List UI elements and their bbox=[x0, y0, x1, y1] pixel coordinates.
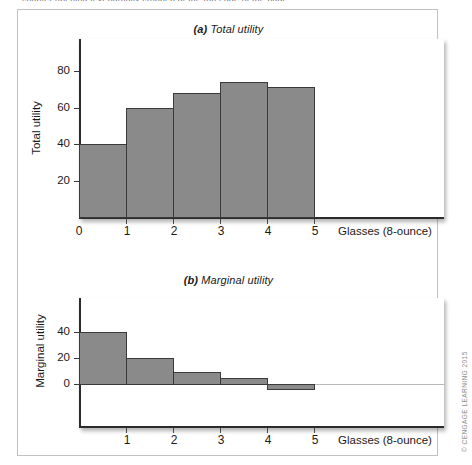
panel-a-title: (a) Total utility bbox=[18, 23, 439, 35]
panel-b-x-label-2: 2 bbox=[162, 433, 186, 447]
panel-b-title-text: Marginal utility bbox=[198, 274, 273, 286]
panel-b-x-label-5: 5 bbox=[303, 433, 327, 447]
panel-a-bar-1 bbox=[79, 144, 127, 218]
panel-b-x-label-1: 1 bbox=[115, 433, 139, 447]
panel-a-bar-2 bbox=[126, 108, 174, 218]
panel-b-x-axis-title: Glasses (8-ounce) bbox=[338, 434, 432, 446]
cropped-top-text: chapter opening text partially cropped a… bbox=[22, 0, 452, 1]
panel-a-bar-5 bbox=[267, 87, 315, 218]
panel-a-x-label-5: 5 bbox=[303, 224, 327, 238]
panel-b-bar-1 bbox=[79, 332, 127, 385]
panel-b-title-marker: (b) bbox=[184, 274, 198, 286]
panel-a-x-label-0: 0 bbox=[67, 224, 91, 238]
panel-marginal-utility: (b) Marginal utility 0 20 40 Marginal ut… bbox=[18, 250, 439, 457]
panel-a-x-axis-title: Glasses (8-ounce) bbox=[338, 225, 432, 237]
panel-a-title-marker: (a) bbox=[194, 23, 208, 35]
panel-a-y-tick-80 bbox=[74, 71, 79, 72]
panel-a-y-label-40: 40 bbox=[38, 137, 70, 149]
panel-a-y-label-80: 80 bbox=[38, 64, 70, 76]
figure-frame: (a) Total utility 20 40 60 80 Total util… bbox=[17, 9, 438, 456]
panel-b-title: (b) Marginal utility bbox=[18, 274, 439, 286]
panel-b-x-axis bbox=[79, 426, 444, 428]
panel-a-x-label-4: 4 bbox=[256, 224, 280, 238]
panel-b-x-label-3: 3 bbox=[209, 433, 233, 447]
copyright-credit: © CENGAGE LEARNING 2015 bbox=[461, 351, 468, 452]
panel-a-y-axis-title: Total utility bbox=[30, 88, 42, 168]
panel-b-y-axis-title: Marginal utility bbox=[34, 301, 46, 401]
panel-a-x-label-2: 2 bbox=[162, 224, 186, 238]
panel-total-utility: (a) Total utility 20 40 60 80 Total util… bbox=[18, 10, 439, 246]
panel-b-bar-4 bbox=[220, 378, 268, 385]
panel-a-bar-4 bbox=[220, 82, 268, 218]
panel-b-bar-2 bbox=[126, 358, 174, 385]
panel-b-bar-3 bbox=[173, 372, 221, 385]
panel-a-y-label-60: 60 bbox=[38, 101, 70, 113]
panel-a-title-text: Total utility bbox=[207, 23, 263, 35]
panel-a-bar-3 bbox=[173, 93, 221, 218]
panel-a-y-label-20: 20 bbox=[38, 174, 70, 186]
panel-a-y-tick-60 bbox=[74, 108, 79, 109]
panel-b-bar-5 bbox=[267, 384, 315, 390]
panel-b-x-label-4: 4 bbox=[256, 433, 280, 447]
panel-a-x-label-3: 3 bbox=[209, 224, 233, 238]
panel-a-x-label-1: 1 bbox=[115, 224, 139, 238]
